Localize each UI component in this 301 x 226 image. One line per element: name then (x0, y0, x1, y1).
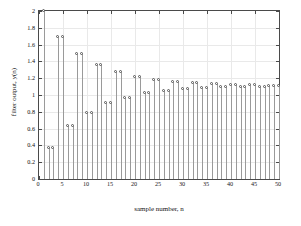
y-axis-tick (39, 61, 42, 62)
x-axis-tick-label: 20 (131, 180, 137, 187)
stem-line (188, 89, 189, 179)
y-axis-tick (39, 78, 42, 79)
x-axis-tick-label: 0 (36, 180, 39, 187)
stem-line (97, 65, 98, 179)
y-axis-tick-label: 1.8 (0, 23, 35, 30)
y-axis-tick (276, 78, 279, 79)
x-axis-tick (63, 11, 64, 14)
stem-line (106, 103, 107, 179)
stem-line (140, 77, 141, 179)
data-point-marker (157, 78, 160, 81)
data-point-marker (277, 84, 280, 87)
stem-line (154, 80, 155, 179)
data-point-marker (186, 87, 189, 90)
y-axis-tick (39, 28, 42, 29)
stem-line (169, 91, 170, 179)
stem-line (226, 87, 227, 179)
y-axis-tick (276, 45, 279, 46)
x-axis-tick-label: 30 (179, 180, 185, 187)
y-axis-tick-label: 1 (0, 91, 35, 98)
stem-line (73, 126, 74, 179)
data-point-marker (239, 85, 242, 88)
data-point-marker (215, 82, 218, 85)
stem-line (164, 91, 165, 179)
data-point-marker (162, 89, 165, 92)
data-point-marker (263, 85, 266, 88)
y-axis-tick (39, 162, 42, 163)
data-point-marker (167, 89, 170, 92)
x-axis-tick (279, 11, 280, 14)
data-point-marker (90, 111, 93, 114)
stem-line (183, 89, 184, 179)
y-axis-tick (39, 112, 42, 113)
data-point-marker (128, 96, 131, 99)
data-point-marker (210, 82, 213, 85)
stem-line (231, 85, 232, 179)
x-axis-tick-label: 50 (275, 180, 281, 187)
stem-line (265, 87, 266, 179)
x-axis-label: sample number, n (38, 205, 280, 213)
stem-line (207, 88, 208, 179)
stem-line (217, 84, 218, 179)
data-point-marker (66, 124, 69, 127)
x-axis-tick (39, 176, 40, 179)
stem-line (101, 65, 102, 179)
stem-line (149, 93, 150, 179)
y-axis-tick-label: 1.6 (0, 40, 35, 47)
x-axis-tick-label: 15 (107, 180, 113, 187)
x-axis-tick-label: 40 (227, 180, 233, 187)
stem-line (125, 98, 126, 179)
stem-line (173, 82, 174, 179)
stem-line (145, 93, 146, 179)
stem-line (130, 98, 131, 179)
stem-line (241, 87, 242, 179)
data-point-marker (85, 111, 88, 114)
plot-area (38, 10, 280, 180)
data-point-marker (258, 85, 261, 88)
stem-line (236, 85, 237, 179)
y-axis-tick-label: 2 (0, 7, 35, 14)
y-axis-tick-label: 1.2 (0, 74, 35, 81)
x-axis-tick (255, 11, 256, 14)
x-axis-tick (135, 11, 136, 14)
y-axis-tick-label: 1.4 (0, 57, 35, 64)
y-axis-tick-label: 0.8 (0, 107, 35, 114)
x-axis-tick-label: 45 (251, 180, 257, 187)
stem-line (260, 87, 261, 179)
stem-line (245, 87, 246, 179)
data-point-marker (234, 83, 237, 86)
stem-line (77, 54, 78, 179)
stem-line (269, 86, 270, 179)
stem-line (82, 54, 83, 179)
x-axis-tick (111, 11, 112, 14)
stem-line (197, 83, 198, 179)
data-point-marker (71, 124, 74, 127)
stem-line (193, 83, 194, 179)
y-axis-tick (39, 145, 42, 146)
stem-line (178, 82, 179, 179)
stem-line (279, 86, 280, 179)
data-point-marker (95, 63, 98, 66)
x-axis-tick-label: 35 (203, 180, 209, 187)
y-axis-tick (276, 61, 279, 62)
x-axis-tick (39, 11, 40, 14)
data-point-marker (42, 9, 45, 12)
y-axis-tick-label: 0.6 (0, 124, 35, 131)
x-axis-tick (183, 11, 184, 14)
stem-line (58, 37, 59, 179)
y-axis-tick (39, 45, 42, 46)
stem-line (221, 87, 222, 179)
data-point-marker (253, 83, 256, 86)
y-axis-tick-label: 0.2 (0, 158, 35, 165)
y-axis-tick-label: 0 (0, 175, 35, 182)
x-axis-tick (231, 11, 232, 14)
stem-line (255, 85, 256, 179)
stem-line (63, 37, 64, 179)
stem-line (202, 88, 203, 179)
y-axis-tick-label: 0.4 (0, 141, 35, 148)
stem-line (53, 148, 54, 179)
stem-line (111, 103, 112, 179)
stem-line (68, 126, 69, 179)
stem-line (135, 77, 136, 179)
stem-line (121, 72, 122, 179)
